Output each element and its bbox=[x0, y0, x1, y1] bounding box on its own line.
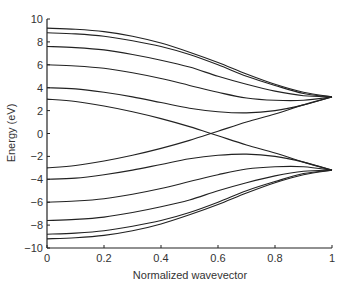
band-line-band+1 bbox=[47, 28, 332, 97]
band-line-band-2 bbox=[47, 170, 332, 234]
y-tick-label: −8 bbox=[30, 219, 43, 231]
x-axis-label: Normalized wavevector bbox=[133, 269, 248, 281]
y-tick-label: −6 bbox=[30, 196, 43, 208]
y-tick-label: 6 bbox=[37, 59, 43, 71]
y-tick-label: 4 bbox=[37, 82, 43, 94]
x-tick-label: 1 bbox=[329, 252, 335, 264]
y-tick-label: 2 bbox=[37, 105, 43, 117]
y-tick-label: 10 bbox=[31, 13, 43, 25]
y-axis-label: Energy (eV) bbox=[5, 104, 17, 163]
y-tick-label: 0 bbox=[37, 128, 43, 140]
x-tick-label: 0 bbox=[44, 252, 50, 264]
x-tick-label: 0.4 bbox=[153, 252, 168, 264]
band-lines bbox=[47, 28, 332, 239]
x-tick-label: 0.2 bbox=[96, 252, 111, 264]
band-line-band-4 bbox=[47, 166, 332, 202]
band-structure-chart: −10−8−6−4−20246810 00.20.40.60.81 Normal… bbox=[0, 0, 344, 285]
y-tick-label: −2 bbox=[30, 150, 43, 162]
y-tick-label: 8 bbox=[37, 36, 43, 48]
band-line-band+4 bbox=[47, 65, 332, 101]
band-line-band-1 bbox=[47, 170, 332, 239]
x-tick-label: 0.8 bbox=[267, 252, 282, 264]
y-tick-label: −4 bbox=[30, 173, 43, 185]
band-line-band+2 bbox=[47, 33, 332, 97]
axes bbox=[47, 19, 332, 248]
y-tick-label: −10 bbox=[24, 242, 43, 254]
y-axis-ticks: −10−8−6−4−20246810 bbox=[24, 13, 50, 254]
x-tick-label: 0.6 bbox=[210, 252, 225, 264]
